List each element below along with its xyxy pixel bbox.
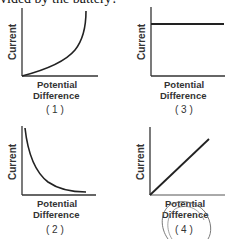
graph-3-number: ( 3 ): [175, 104, 193, 115]
graph-2-number: ( 2 ): [46, 224, 64, 235]
graph-1-xlabel-line2: Difference: [33, 90, 79, 101]
graphs-figure: Current Potential Difference ( 1 ) Curre…: [0, 0, 228, 239]
graph-2: Current Potential Difference ( 2 ): [7, 126, 96, 235]
graph-3-ylabel: Current: [136, 23, 147, 60]
graph-2-curve: [25, 128, 86, 192]
graph-2-ylabel: Current: [7, 143, 18, 180]
graph-2-xlabel-line2: Difference: [33, 209, 79, 220]
graph-1-ylabel: Current: [7, 23, 18, 60]
graph-4-xlabel-line1: Potential: [165, 198, 205, 209]
graph-4: Current Potential Difference ( 4 ): [135, 127, 225, 239]
graph-2-xlabel-line1: Potential: [37, 198, 77, 209]
graph-3-xlabel-line1: Potential: [164, 79, 204, 90]
graph-1-curve: [22, 11, 86, 76]
graph-4-number: ( 4 ): [175, 224, 193, 235]
graph-3: Current Potential Difference ( 3 ): [136, 7, 225, 115]
graph-3-xlabel-line2: Difference: [160, 90, 206, 101]
graph-4-curve: [150, 139, 209, 195]
graph-1-number: ( 1 ): [46, 104, 64, 115]
graph-4-ylabel: Current: [135, 143, 146, 180]
graph-1-xlabel-line1: Potential: [37, 79, 77, 90]
graph-1: Current Potential Difference ( 1 ): [7, 8, 98, 115]
